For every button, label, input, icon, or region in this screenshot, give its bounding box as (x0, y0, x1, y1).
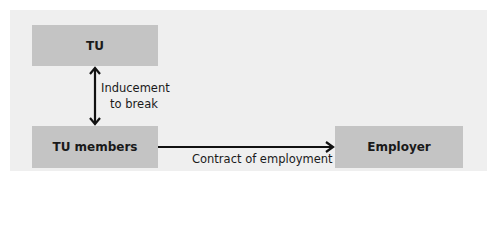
edge-label-inducement-line1: Inducement (101, 80, 167, 96)
edge-label-inducement: Inducement to break (101, 80, 167, 112)
edge-label-inducement-line2: to break (101, 96, 167, 112)
double-arrow-icon (90, 68, 100, 124)
edge-label-contract: Contract of employment (192, 151, 333, 167)
